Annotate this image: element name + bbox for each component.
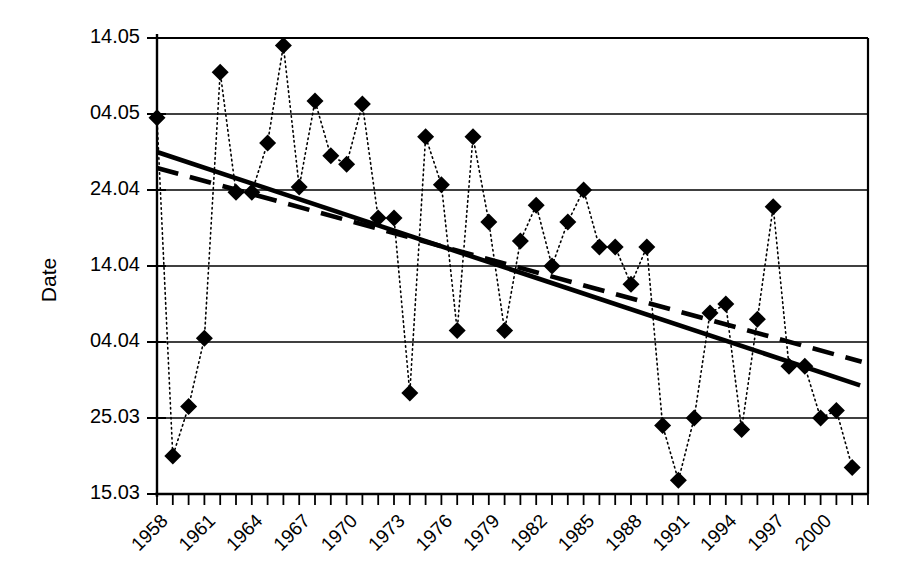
y-axis-title: Date [37, 258, 60, 302]
x-tick-label-13: 1997 [743, 510, 788, 555]
x-tick-label-8: 1982 [506, 510, 551, 555]
x-tick-label-7: 1979 [459, 510, 504, 555]
x-tick-label-10: 1988 [601, 510, 646, 555]
x-tick-label-5: 1973 [364, 510, 409, 555]
x-tick-label-1: 1961 [174, 510, 219, 555]
y-tick-label-3: 14.04 [90, 253, 140, 275]
y-tick-label-6: 15.03 [90, 481, 140, 503]
y-tick-label-2: 24.04 [90, 177, 140, 199]
x-tick-marks [157, 494, 868, 505]
y-tick-label-4: 04.04 [90, 329, 140, 351]
y-tick-label-1: 04.05 [90, 101, 140, 123]
x-tick-label-6: 1976 [411, 510, 456, 555]
x-tick-label-12: 1994 [696, 510, 741, 555]
y-tick-label-5: 25.03 [90, 405, 140, 427]
x-tick-label-4: 1970 [317, 510, 362, 555]
y-tick-label-0: 14.05 [90, 25, 140, 47]
x-tick-label-9: 1985 [554, 510, 599, 555]
x-tick-label-3: 1967 [269, 510, 314, 555]
x-tick-labels: 1958196119641967197019731976197919821985… [127, 510, 835, 555]
chart-container: 14.05 04.05 24.04 14.04 04.04 25.03 15.0… [0, 0, 914, 587]
date-trend-scatter-chart: 14.05 04.05 24.04 14.04 04.04 25.03 15.0… [0, 0, 914, 587]
y-tick-labels: 14.05 04.05 24.04 14.04 04.04 25.03 15.0… [90, 25, 140, 503]
x-tick-label-14: 2000 [791, 510, 836, 555]
x-tick-label-0: 1958 [127, 510, 172, 555]
x-tick-label-11: 1991 [648, 510, 693, 555]
x-tick-label-2: 1964 [222, 510, 267, 555]
